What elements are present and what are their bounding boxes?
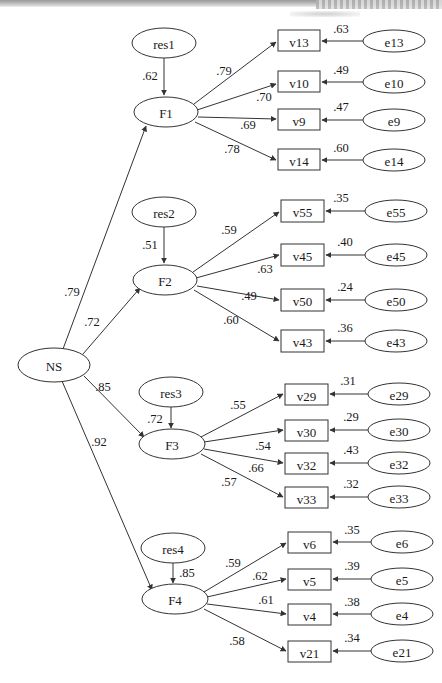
latent-node-label-F4: F4 [168, 594, 182, 607]
path-coefficient-F1-to-v14: .78 [224, 143, 240, 156]
error-node-label-e6: e6 [396, 537, 408, 550]
path-coefficient-res1-to-F1: .62 [142, 70, 158, 83]
latent-node-label-F2: F2 [158, 275, 172, 288]
path-arrow-F4-to-v21[interactable] [204, 609, 286, 651]
error-path-coefficient-e4-to-v4: .38 [344, 596, 360, 609]
error-node-label-e32: e32 [390, 458, 409, 471]
error-node-label-e33: e33 [390, 492, 409, 505]
path-coefficient-F3-to-v33: .57 [221, 476, 237, 489]
observed-variable-node-label-v10: v10 [289, 76, 309, 89]
path-arrow-F4-to-v5[interactable] [207, 579, 286, 597]
observed-variable-node-label-v6: v6 [303, 537, 316, 550]
path-coefficient-F2-to-v43: .60 [223, 314, 239, 327]
path-coefficient-F4-to-v4: .61 [258, 594, 274, 607]
error-path-coefficient-e43-to-v43: .36 [337, 322, 353, 335]
path-arrow-F1-to-v9[interactable] [198, 117, 276, 119]
residual-node-label-res2: res2 [153, 207, 175, 220]
error-node-label-e9: e9 [388, 115, 400, 128]
error-node-label-e21: e21 [393, 646, 412, 659]
error-node-label-e4: e4 [396, 609, 408, 622]
error-node-label-e55: e55 [387, 206, 406, 219]
path-coefficient-NS-to-F3: .85 [95, 381, 111, 394]
path-coefficient-F3-to-v32: .66 [248, 462, 264, 475]
error-node-label-e5: e5 [396, 574, 408, 587]
path-arrow-NS-to-F3[interactable] [84, 376, 144, 437]
path-arrow-F4-to-v4[interactable] [207, 604, 286, 614]
latent-node-label-F1: F1 [159, 107, 173, 120]
path-coefficient-NS-to-F4: .92 [91, 436, 107, 449]
path-arrow-F2-to-v50[interactable] [197, 286, 279, 300]
residual-node-label-res3: res3 [160, 387, 182, 400]
observed-variable-node-label-v33: v33 [297, 492, 317, 505]
path-coefficient-res3-to-F3: .72 [147, 413, 163, 426]
observed-variable-node-label-v29: v29 [297, 389, 317, 402]
path-arrow-NS-to-F4[interactable] [62, 381, 152, 590]
error-path-coefficient-e13-to-v13: .63 [333, 23, 349, 36]
observed-variable-node-label-v9: v9 [293, 114, 306, 127]
path-arrow-F4-to-v6[interactable] [204, 543, 286, 592]
path-diagram [0, 0, 442, 683]
path-coefficient-F4-to-v5: .62 [252, 570, 268, 583]
observed-variable-node-label-v4: v4 [303, 609, 316, 622]
error-node-label-e50: e50 [387, 295, 406, 308]
error-path-coefficient-e45-to-v45: .40 [337, 236, 353, 249]
observed-variable-node-label-v45: v45 [293, 250, 313, 263]
observed-variable-node-label-v55: v55 [293, 206, 313, 219]
error-node-label-e43: e43 [387, 336, 406, 349]
latent-node-label-NS: NS [46, 360, 63, 373]
error-path-coefficient-e33-to-v33: .32 [343, 478, 359, 491]
error-path-coefficient-e21-to-v21: .34 [344, 632, 360, 645]
error-path-coefficient-e30-to-v30: .29 [343, 411, 359, 424]
residual-node-label-res4: res4 [162, 543, 184, 556]
error-node-label-e13: e13 [385, 36, 404, 49]
error-node-label-e29: e29 [390, 389, 409, 402]
path-coefficient-res4-to-F4: .85 [179, 567, 195, 580]
path-coefficient-F4-to-v6: .59 [225, 557, 241, 570]
figure-canvas: NSF1F2F3F4res1res2res3res4v13v10v9v14v55… [0, 0, 442, 683]
error-node-label-e45: e45 [387, 250, 406, 263]
path-coefficient-F2-to-v50: .49 [241, 290, 257, 303]
edges-layer [62, 41, 371, 651]
observed-variable-node-label-v14: v14 [289, 154, 309, 167]
path-coefficient-F2-to-v45: .63 [257, 263, 273, 276]
error-path-coefficient-e29-to-v29: .31 [340, 375, 356, 388]
latent-node-label-F3: F3 [165, 439, 179, 452]
path-coefficient-F1-to-v9: .69 [240, 119, 256, 132]
path-coefficient-F2-to-v55: .59 [221, 224, 237, 237]
error-node-label-e30: e30 [390, 425, 409, 438]
residual-node-label-res1: res1 [153, 38, 175, 51]
path-coefficient-NS-to-F2: .72 [84, 316, 100, 329]
path-coefficient-F3-to-v29: .55 [230, 399, 246, 412]
error-path-coefficient-e55-to-v55: .35 [333, 192, 349, 205]
error-path-coefficient-e9-to-v9: .47 [333, 101, 349, 114]
observed-variable-node-label-v50: v50 [293, 295, 313, 308]
error-path-coefficient-e10-to-v10: .49 [333, 64, 349, 77]
error-path-coefficient-e5-to-v5: .39 [344, 560, 360, 573]
error-node-label-e14: e14 [385, 155, 404, 168]
path-coefficient-F1-to-v13: .79 [216, 65, 232, 78]
path-coefficient-res2-to-F2: .51 [142, 239, 158, 252]
path-coefficient-F3-to-v30: .54 [255, 440, 271, 453]
path-arrow-NS-to-F1[interactable] [63, 126, 146, 349]
error-node-label-e10: e10 [385, 77, 404, 90]
observed-variable-node-label-v32: v32 [297, 458, 317, 471]
path-coefficient-NS-to-F1: .79 [64, 286, 80, 299]
path-coefficient-F1-to-v10: .70 [256, 91, 272, 104]
error-path-coefficient-e14-to-v14: .60 [333, 142, 349, 155]
observed-variable-node-label-v30: v30 [297, 425, 317, 438]
error-path-coefficient-e50-to-v50: .24 [337, 281, 353, 294]
error-path-coefficient-e32-to-v32: .43 [343, 444, 359, 457]
error-path-coefficient-e6-to-v6: .35 [344, 524, 360, 537]
observed-variable-node-label-v43: v43 [293, 336, 313, 349]
observed-variable-node-label-v13: v13 [289, 35, 309, 48]
observed-variable-node-label-v21: v21 [300, 646, 320, 659]
path-coefficient-F4-to-v21: .58 [229, 635, 245, 648]
observed-variable-node-label-v5: v5 [303, 574, 316, 587]
